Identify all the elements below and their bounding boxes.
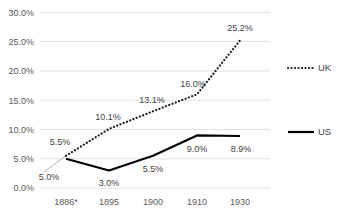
line-chart: 30.0% 25.0% 20.0% 15.0% 10.0% 5.0% 0.0% … [0,0,340,218]
x-tick-label-1930: 1930 [230,197,250,207]
y-tick-label-25: 25.0% [8,37,34,47]
chart-canvas: 30.0% 25.0% 20.0% 15.0% 10.0% 5.0% 0.0% … [0,0,340,218]
x-tick-label-1886: 1886* [54,197,78,207]
y-tick-label-20: 20.0% [8,66,34,76]
x-tick-label-1895: 1895 [99,197,119,207]
y-tick-label-30: 30.0% [8,8,34,18]
data-label-uk-1895: 10.1% [95,112,121,122]
data-label-us-1886: 5.0% [39,172,60,182]
y-tick-label-10: 10.0% [8,125,34,135]
y-tick-label-15: 15.0% [8,96,34,106]
legend-label-uk: UK [318,62,332,73]
data-label-uk-1886: 5.5% [50,137,71,147]
y-tick-label-0: 0.0% [13,183,34,193]
x-tick-label-1900: 1900 [143,197,163,207]
data-label-uk-1900: 13.1% [139,95,165,105]
legend-label-us: US [318,126,331,137]
x-tick-label-1910: 1910 [187,197,207,207]
data-label-us-1910: 9.0% [187,144,208,154]
y-tick-label-5: 5.0% [13,154,34,164]
chart-background [0,0,340,218]
data-label-uk-1910: 16.0% [180,79,206,89]
data-label-us-1895: 3.0% [99,178,120,188]
data-label-uk-1930: 25.2% [227,23,253,33]
data-label-us-1900: 5.5% [143,164,164,174]
data-label-us-1930: 8.9% [231,144,252,154]
